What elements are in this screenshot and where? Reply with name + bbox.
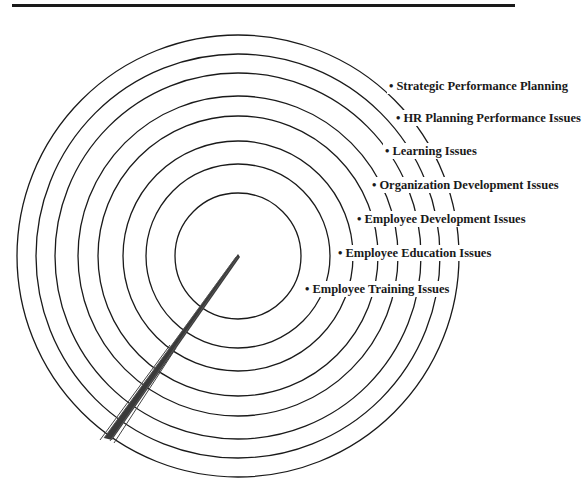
ring-label-text: HR Planning Performance Issues: [403, 111, 580, 125]
bullet-icon: •: [357, 212, 361, 226]
ring-label-text: Employee Development Issues: [364, 212, 525, 226]
ring-label: •Employee Development Issues: [355, 211, 528, 227]
ring-label: •Organization Development Issues: [370, 177, 561, 193]
ring-label-text: Strategic Performance Planning: [396, 79, 567, 93]
ring-label-text: Employee Education Issues: [345, 246, 491, 260]
bullet-icon: •: [338, 246, 342, 260]
ring-label-text: Employee Training Issues: [312, 282, 449, 296]
bullet-icon: •: [372, 178, 376, 192]
ring-label: •Strategic Performance Planning: [387, 78, 570, 94]
bullet-icon: •: [389, 79, 393, 93]
bullet-icon: •: [396, 111, 400, 125]
ring-label: •Employee Education Issues: [336, 245, 493, 261]
bullet-icon: •: [305, 282, 309, 296]
ring-label: •HR Planning Performance Issues: [394, 110, 583, 126]
ring-label: •Learning Issues: [383, 143, 479, 159]
ring-label-text: Learning Issues: [392, 144, 476, 158]
ring-label-text: Organization Development Issues: [379, 178, 558, 192]
ring-label: •Employee Training Issues: [303, 281, 451, 297]
bullet-icon: •: [385, 144, 389, 158]
concentric-rings-diagram: [0, 0, 588, 497]
